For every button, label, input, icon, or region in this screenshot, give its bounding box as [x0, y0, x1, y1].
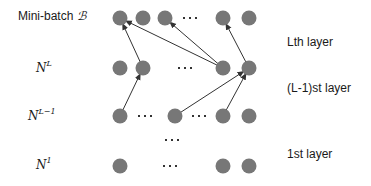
node-layer-L-2	[216, 61, 231, 76]
edge-arrow-5	[176, 72, 243, 116]
node-layer-L-1	[136, 61, 151, 76]
edge-arrow-0	[123, 24, 143, 67]
node-minibatch-0	[113, 11, 128, 26]
node-layer-1-1	[216, 159, 231, 174]
node-layer-L-1-1	[168, 109, 183, 124]
edge-arrow-2	[170, 22, 222, 67]
minibatch-label: Mini-batch ℬ	[18, 9, 86, 23]
layer-L-label-sup: L	[47, 59, 52, 68]
node-layer-L-1-0	[113, 109, 128, 124]
lth-layer-label: Lth layer	[287, 35, 333, 49]
node-minibatch-1	[136, 11, 151, 26]
ellipsis-icon	[183, 17, 197, 19]
ellipsis-icon	[165, 139, 179, 141]
layer-L-1-label-sup: L−1	[39, 107, 56, 116]
ellipsis-icon	[192, 115, 206, 117]
ellipsis-icon	[178, 67, 192, 69]
edge-arrow-4	[121, 74, 141, 115]
node-minibatch-2	[158, 11, 173, 26]
node-layer-1-2	[242, 159, 257, 174]
edge-arrow-6	[224, 74, 246, 115]
node-layer-L-3	[242, 61, 257, 76]
layer-1-label-base: N	[36, 158, 47, 172]
node-layer-L-1-3	[242, 109, 257, 124]
edge-arrow-1	[126, 21, 222, 68]
node-layer-1-0	[113, 159, 128, 174]
first-layer-label: 1st layer	[287, 147, 332, 161]
minibatch-label-text: Mini-batch	[18, 9, 77, 23]
node-layer-L-0	[113, 61, 128, 76]
ellipsis-icon	[138, 115, 152, 117]
layer-L-label-base: N	[36, 61, 47, 75]
layer-1-label-sup: 1	[47, 156, 52, 165]
ellipsis-group	[138, 17, 206, 167]
node-layer-L-1-2	[216, 109, 231, 124]
node-minibatch-3	[216, 11, 231, 26]
l-1st-layer-label: (L-1)st layer	[287, 81, 351, 95]
layer-1-label: N1	[36, 157, 52, 172]
node-minibatch-4	[242, 11, 257, 26]
layer-L-1-label: NL−1	[28, 108, 56, 123]
layer-L-1-label-base: N	[28, 109, 39, 123]
ellipsis-icon	[163, 165, 177, 167]
edge-arrow-3	[226, 24, 248, 67]
minibatch-symbol: ℬ	[77, 9, 86, 23]
layer-L-label: NL	[36, 60, 52, 75]
